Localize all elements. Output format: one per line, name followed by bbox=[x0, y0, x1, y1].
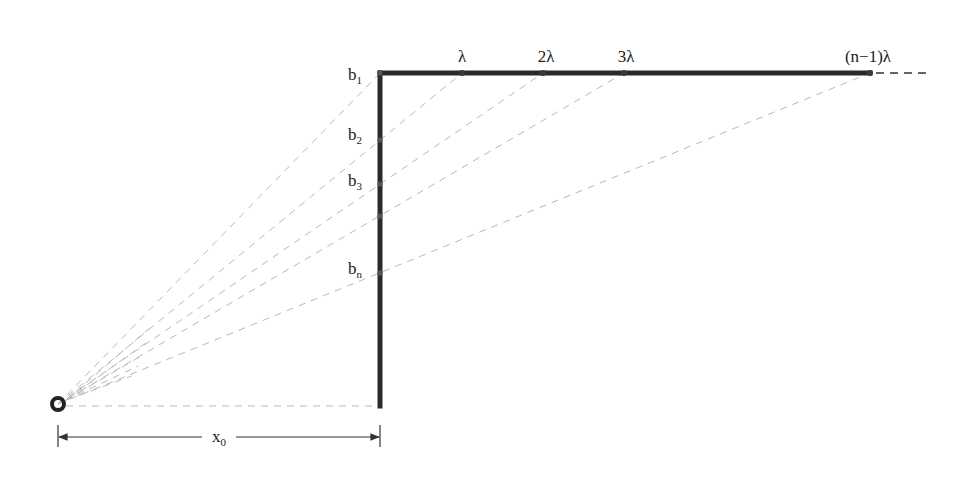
marker-b2 bbox=[377, 137, 382, 142]
labels: λ2λ3λ(n−1)λb1b2b3bn bbox=[348, 47, 892, 280]
short-fan-rays bbox=[66, 328, 149, 400]
label-lambdan: (n−1)λ bbox=[845, 47, 892, 66]
label-bn: bn bbox=[348, 259, 363, 280]
fan-ray bbox=[66, 355, 144, 400]
projection-rays bbox=[58, 73, 870, 406]
ray-lambdan bbox=[58, 73, 870, 404]
marker-b_extra bbox=[377, 213, 382, 218]
marker-lambdan bbox=[867, 70, 873, 76]
fan-ray bbox=[66, 366, 138, 400]
label-x0: x0 bbox=[212, 427, 227, 448]
label-lambda3: 3λ bbox=[618, 47, 636, 66]
marker-lambda2 bbox=[540, 70, 546, 76]
diagram-canvas: λ2λ3λ(n−1)λb1b2b3bn x0 bbox=[0, 0, 973, 487]
label-b3: b3 bbox=[348, 171, 363, 192]
label-lambda1: λ bbox=[458, 47, 467, 66]
x0-dimension-line: x0 bbox=[58, 425, 380, 448]
label-b1: b1 bbox=[348, 65, 362, 86]
marker-lambda3 bbox=[621, 70, 627, 76]
label-lambda2: 2λ bbox=[538, 47, 556, 66]
marker-b1 bbox=[377, 70, 382, 75]
l-shaped-bar bbox=[380, 73, 926, 406]
ray-lambda3 bbox=[58, 73, 624, 404]
marker-b3 bbox=[377, 181, 382, 186]
label-b2: b2 bbox=[348, 125, 362, 146]
marker-lambda1 bbox=[459, 70, 465, 76]
fan-ray bbox=[66, 328, 149, 400]
marker-bn bbox=[377, 270, 382, 275]
ray-b1 bbox=[58, 73, 380, 404]
